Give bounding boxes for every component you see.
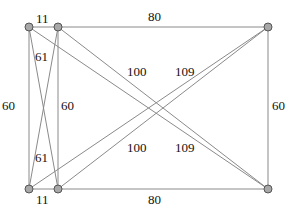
node-C bbox=[264, 23, 272, 31]
edge-weight-label: 80 bbox=[148, 9, 161, 24]
edge-weight-label: 11 bbox=[36, 11, 49, 26]
edge-weight-label: 61 bbox=[35, 49, 48, 64]
graph-svg: 118061100109606060611001091180 bbox=[0, 0, 297, 214]
labels-layer: 118061100109606060611001091180 bbox=[2, 9, 285, 207]
edge-weight-label: 100 bbox=[127, 64, 147, 79]
edge-weight-label: 60 bbox=[61, 98, 74, 113]
edge-weight-label: 11 bbox=[36, 192, 49, 207]
edge-weight-label: 60 bbox=[2, 98, 15, 113]
node-A bbox=[25, 23, 33, 31]
node-D bbox=[25, 185, 33, 193]
edge-weight-label: 61 bbox=[35, 150, 48, 165]
edge-weight-label: 109 bbox=[175, 64, 195, 79]
edge-weight-label: 100 bbox=[127, 140, 147, 155]
graph-diagram: 118061100109606060611001091180 bbox=[0, 0, 297, 214]
edge-weight-label: 109 bbox=[175, 140, 195, 155]
node-F bbox=[264, 185, 272, 193]
node-E bbox=[54, 185, 62, 193]
edge-weight-label: 60 bbox=[272, 98, 285, 113]
edge-weight-label: 80 bbox=[148, 192, 161, 207]
node-B bbox=[54, 23, 62, 31]
